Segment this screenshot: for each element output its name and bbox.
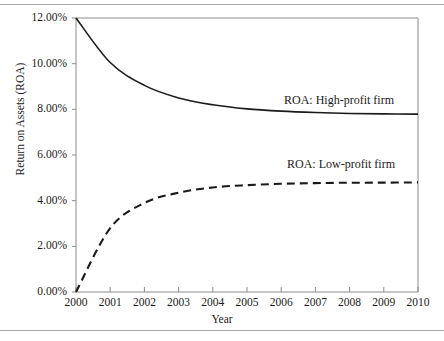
bottom-divider-rule: [0, 330, 444, 331]
plot-frame: [76, 18, 418, 292]
y-tick-label: 8.00%: [0, 103, 67, 115]
y-tick-label: 12.00%: [0, 12, 67, 24]
x-axis-title: Year: [0, 313, 444, 325]
y-tick-label: 10.00%: [0, 58, 67, 70]
y-tick-label: 0.00%: [0, 286, 67, 298]
axis-ticks: [72, 18, 418, 292]
y-tick-label: 4.00%: [0, 195, 67, 207]
series-label-high-profit: ROA: High-profit firm: [284, 93, 394, 108]
series-line-low-profit: [76, 182, 418, 292]
series-label-low-profit: ROA: Low-profit firm: [287, 157, 395, 172]
y-tick-label: 2.00%: [0, 240, 67, 252]
chart-figure: 0.00%2.00%4.00%6.00%8.00%10.00%12.00% 20…: [0, 5, 444, 330]
x-tick-label: 2010: [398, 297, 438, 309]
y-tick-label: 6.00%: [0, 149, 67, 161]
y-axis-title: Return on Assets (ROA): [14, 44, 26, 194]
